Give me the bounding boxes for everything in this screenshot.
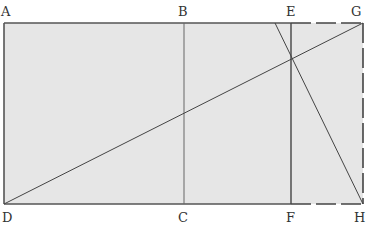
label-c: C (178, 210, 188, 225)
label-a: A (0, 4, 11, 19)
label-g: G (351, 4, 361, 19)
label-e: E (286, 4, 296, 19)
golden-rectangle-diagram: A B E G D C F H (0, 0, 372, 230)
label-h: H (354, 210, 365, 225)
label-d: D (2, 210, 12, 225)
label-b: B (178, 4, 188, 19)
label-f: F (286, 210, 295, 225)
